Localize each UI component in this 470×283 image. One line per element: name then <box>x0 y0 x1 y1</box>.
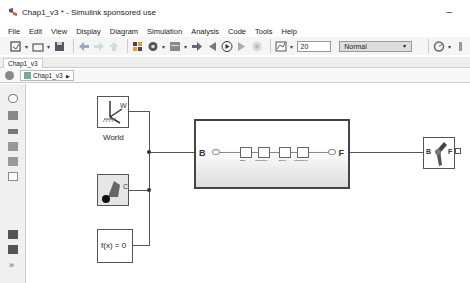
solver-label: f(x) = 0 <box>101 241 126 250</box>
world-label: World <box>103 133 124 142</box>
model-browser-icon[interactable] <box>8 230 18 239</box>
chevron-down-icon: ▾ <box>403 42 406 51</box>
image-icon[interactable] <box>8 157 18 166</box>
menu-analysis[interactable]: Analysis <box>191 27 219 36</box>
model-icon <box>24 72 31 79</box>
stop-icon[interactable] <box>251 41 263 52</box>
breadcrumb[interactable]: Chap1_v3 ▶ <box>20 70 74 81</box>
library-browser-icon[interactable] <box>132 41 144 52</box>
wire <box>149 152 194 153</box>
subsystem-block[interactable]: B F Base Translation Body1 Translation1 <box>194 119 350 189</box>
performance-advisor-icon[interactable] <box>433 41 445 52</box>
menu-help[interactable]: Help <box>282 27 297 36</box>
mechanism-config-icon <box>98 175 128 205</box>
menu-tools[interactable]: Tools <box>255 27 273 36</box>
model-canvas[interactable]: W World C f(x) = 0 B F Base Translation … <box>27 84 470 283</box>
arrow-icon[interactable] <box>8 129 18 134</box>
branch-point <box>147 188 151 192</box>
wire <box>129 190 149 191</box>
open-dropdown[interactable]: ▾ <box>47 43 50 50</box>
step-forward-icon[interactable] <box>236 41 248 52</box>
separator <box>127 39 128 53</box>
inner-port-icon <box>212 149 220 155</box>
up-arrow-icon[interactable] <box>108 41 120 52</box>
toolbar: ▾ ▾ ▾ ▾ ▾ 20 Normal▾ ▾ <box>0 37 470 55</box>
step-back-icon[interactable] <box>191 41 203 52</box>
scope-dropdown[interactable]: ▾ <box>290 43 293 50</box>
menu-simulation[interactable]: Simulation <box>147 27 182 36</box>
forward-arrow-icon[interactable] <box>93 41 105 52</box>
sensing-port-icon <box>455 148 461 154</box>
area-icon[interactable] <box>8 172 18 181</box>
inner-label: Base <box>240 159 246 162</box>
back-arrow-icon[interactable] <box>78 41 90 52</box>
solver-configuration-block[interactable]: f(x) = 0 <box>97 229 133 263</box>
separator <box>270 39 271 53</box>
build-icon[interactable] <box>455 41 467 52</box>
zoom-icon[interactable] <box>8 94 18 103</box>
open-folder-icon[interactable] <box>32 41 44 52</box>
menu-bar: File Edit View Display Diagram Simulatio… <box>0 25 302 37</box>
address-bar: Chap1_v3 ▶ <box>0 69 470 83</box>
menu-display[interactable]: Display <box>76 27 101 36</box>
run-icon[interactable] <box>221 41 233 52</box>
menu-view[interactable]: View <box>51 27 67 36</box>
inner-label: Translation <box>255 159 267 162</box>
inner-block-translation <box>258 147 270 158</box>
simulation-mode-select[interactable]: Normal▾ <box>339 41 412 52</box>
window-title: Chap1_v3 * - Simulink sponsored use <box>22 8 156 17</box>
wire <box>350 152 423 153</box>
joint-port-b: B <box>426 148 431 155</box>
inner-block-base <box>240 147 252 158</box>
title-bar: Chap1_v3 * - Simulink sponsored use – <box>0 0 470 24</box>
fit-to-view-icon[interactable] <box>8 111 18 120</box>
inner-block-body1 <box>279 147 291 158</box>
advisor-dropdown[interactable]: ▾ <box>448 43 451 50</box>
separator <box>428 39 429 53</box>
property-inspector-icon[interactable] <box>8 245 18 254</box>
explorer-dropdown[interactable]: ▾ <box>184 43 187 50</box>
new-model-icon[interactable] <box>10 41 22 52</box>
simulation-mode-value: Normal <box>344 43 367 50</box>
tool-palette: » <box>0 84 26 283</box>
menu-edit[interactable]: Edit <box>29 27 42 36</box>
inner-port-icon <box>328 149 336 155</box>
menu-code[interactable]: Code <box>228 27 246 36</box>
save-icon[interactable] <box>54 41 66 52</box>
breadcrumb-label: Chap1_v3 <box>33 72 63 79</box>
joint-port-f: F <box>448 148 452 155</box>
branch-point <box>147 150 151 154</box>
model-explorer-icon[interactable] <box>169 41 181 52</box>
world-port-w: W <box>120 102 127 109</box>
stop-time-input[interactable]: 20 <box>297 41 332 52</box>
wire <box>129 111 150 112</box>
tab-chap1-v3[interactable]: Chap1_v3 <box>3 58 43 68</box>
annotation-icon[interactable] <box>8 142 18 151</box>
inner-label: Translation1 <box>294 159 308 162</box>
world-frame-block[interactable]: W <box>97 96 129 128</box>
model-tab-strip: Chap1_v3 <box>0 57 470 68</box>
scope-icon[interactable] <box>275 41 287 52</box>
wire <box>149 111 150 245</box>
hide-show-explorer-icon[interactable] <box>5 71 14 80</box>
inner-wire <box>214 152 334 153</box>
subsystem-port-f: F <box>339 148 345 158</box>
minimize-button[interactable]: – <box>446 6 452 17</box>
model-settings-gear-icon[interactable] <box>147 41 159 52</box>
inner-label: Body1 <box>279 159 286 162</box>
wire <box>133 245 150 246</box>
simulink-app-icon <box>8 7 18 17</box>
config-port-c: C <box>123 183 128 190</box>
settings-dropdown[interactable]: ▾ <box>162 43 165 50</box>
expand-palette-icon[interactable]: » <box>9 260 14 270</box>
new-dropdown[interactable]: ▾ <box>25 43 28 50</box>
step-back-sim-icon[interactable] <box>206 41 218 52</box>
inner-block-translation1 <box>297 147 309 158</box>
menu-diagram[interactable]: Diagram <box>110 27 138 36</box>
separator <box>73 39 74 53</box>
menu-file[interactable]: File <box>8 27 20 36</box>
breadcrumb-arrow-icon[interactable]: ▶ <box>66 73 70 79</box>
mechanism-configuration-block[interactable]: C <box>97 174 129 206</box>
subsystem-port-b: B <box>199 148 206 158</box>
joint-block[interactable]: B F <box>423 137 455 169</box>
